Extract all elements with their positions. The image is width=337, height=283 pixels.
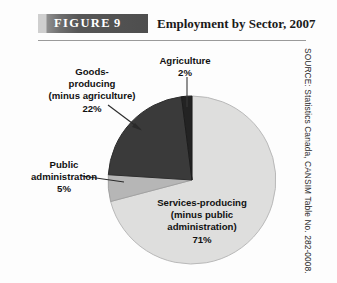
pie-chart: Agriculture 2% Goods- producing (minus a… xyxy=(0,45,300,283)
pie-label-public-percent: 5% xyxy=(18,183,110,195)
pie-label-services-percent: 71% xyxy=(132,234,272,246)
pie-label-goods-line3: (minus agriculture) xyxy=(49,90,136,101)
pie-label-goods-line1: Goods- xyxy=(75,66,109,77)
source-note: SOURCE: Statistics Canada, CANSIM Table … xyxy=(303,48,313,268)
pie-label-public-line1: Public xyxy=(50,159,79,170)
pie-label-agriculture-line1: Agriculture xyxy=(159,55,210,66)
pie-label-agriculture: Agriculture 2% xyxy=(140,55,230,79)
figure-banner-number: 9 xyxy=(114,16,120,31)
pie-label-goods-percent: 22% xyxy=(32,103,152,115)
pie-label-goods-line2: producing xyxy=(69,78,116,89)
pie-label-services-line2: (minus public xyxy=(171,209,233,220)
figure-title: Employment by Sector, 2007 xyxy=(157,16,315,32)
figure-banner-word: FIGURE xyxy=(54,16,111,31)
pie-label-services-line3: administration) xyxy=(167,221,236,232)
pie-label-services-producing: Services-producing (minus public adminis… xyxy=(132,197,272,246)
pie-label-services-line1: Services-producing xyxy=(157,197,247,208)
header-divider xyxy=(38,40,306,41)
pie-label-goods-producing: Goods- producing (minus agriculture) 22% xyxy=(32,66,152,115)
pie-label-agriculture-percent: 2% xyxy=(140,67,230,79)
pie-label-public-administration: Public administration 5% xyxy=(18,159,110,196)
figure-page: FIGURE 9 Employment by Sector, 2007 SOUR… xyxy=(0,0,337,283)
pie-label-public-line2: administration xyxy=(31,171,97,182)
figure-banner: FIGURE 9 xyxy=(38,14,148,33)
